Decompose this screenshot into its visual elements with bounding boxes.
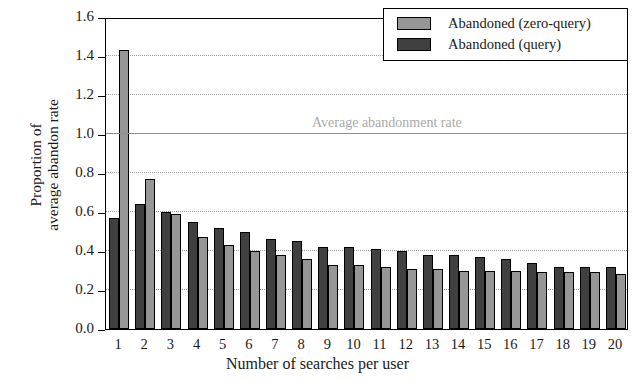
gridline <box>106 211 627 212</box>
bar-zero-query-18 <box>564 272 574 329</box>
bar-query-10 <box>344 247 354 329</box>
bar-query-1 <box>109 218 119 329</box>
bar-zero-query-3 <box>171 214 181 329</box>
bar-zero-query-12 <box>407 269 417 329</box>
y-axis-tick <box>98 18 105 19</box>
bar-query-8 <box>292 241 302 329</box>
bar-zero-query-9 <box>328 265 338 329</box>
gridline <box>106 94 627 95</box>
y-axis-tick-label: 0.0 <box>48 320 94 337</box>
x-axis-title: Number of searches per user <box>0 355 635 373</box>
y-axis-tick <box>98 135 105 136</box>
y-axis-tick-label: 1.0 <box>48 125 94 142</box>
bar-query-18 <box>554 267 564 329</box>
bar-query-19 <box>580 267 590 329</box>
legend-label-query: Abandoned (query) <box>448 36 561 53</box>
bar-query-7 <box>266 239 276 329</box>
bar-zero-query-7 <box>276 255 286 329</box>
y-axis-tick-label: 0.2 <box>48 281 94 298</box>
bar-query-14 <box>449 255 459 329</box>
y-axis-tick <box>98 252 105 253</box>
bar-query-4 <box>188 222 198 329</box>
bar-zero-query-16 <box>511 271 521 330</box>
bar-zero-query-5 <box>224 245 234 329</box>
bar-query-9 <box>318 247 328 329</box>
y-axis-tick <box>98 57 105 58</box>
legend-item-query: Abandoned (query) <box>384 34 627 55</box>
bar-zero-query-20 <box>616 274 626 329</box>
y-axis-tick <box>98 330 105 331</box>
average-reference-label: Average abandonment rate <box>312 115 462 131</box>
y-axis-tick <box>98 96 105 97</box>
bar-zero-query-6 <box>250 251 260 329</box>
bar-query-12 <box>397 251 407 329</box>
legend-swatch-icon-query <box>397 38 431 51</box>
y-axis-tick <box>98 213 105 214</box>
bar-query-20 <box>606 267 616 329</box>
bar-zero-query-17 <box>537 272 547 329</box>
bar-zero-query-13 <box>433 269 443 329</box>
legend-item-zero-query: Abandoned (zero-query) <box>384 13 627 34</box>
bar-zero-query-11 <box>381 267 391 329</box>
bar-zero-query-10 <box>354 265 364 329</box>
y-axis-tick-label: 1.4 <box>48 47 94 64</box>
chart-legend: Abandoned (zero-query) Abandoned (query) <box>383 8 628 61</box>
average-reference-line <box>106 133 627 134</box>
bar-query-3 <box>161 212 171 329</box>
gridline <box>106 250 627 251</box>
legend-swatch-icon-zero-query <box>397 17 431 30</box>
y-axis-tick <box>98 291 105 292</box>
bar-zero-query-1 <box>119 50 129 329</box>
bar-chart-figure: Proportion of average abandon rate 0.00.… <box>0 0 635 383</box>
bar-query-6 <box>240 232 250 330</box>
bar-query-13 <box>423 255 433 329</box>
bar-query-5 <box>214 228 224 329</box>
bar-zero-query-4 <box>198 237 208 329</box>
y-axis-tick-label: 0.4 <box>48 242 94 259</box>
y-axis-tick-label: 1.6 <box>48 8 94 25</box>
bar-query-15 <box>475 257 485 329</box>
gridline <box>106 289 627 290</box>
bar-zero-query-15 <box>485 271 495 330</box>
legend-label-zero-query: Abandoned (zero-query) <box>448 15 591 32</box>
y-axis-tick-label: 1.2 <box>48 86 94 103</box>
bar-query-17 <box>527 263 537 329</box>
y-axis-tick-label: 0.8 <box>48 164 94 181</box>
bar-zero-query-14 <box>459 271 469 330</box>
bar-zero-query-2 <box>145 179 155 329</box>
x-axis-tick-label: 20 <box>600 336 630 353</box>
bar-query-16 <box>501 259 511 329</box>
gridline <box>106 172 627 173</box>
y-axis-tick-label: 0.6 <box>48 203 94 220</box>
bar-zero-query-8 <box>302 259 312 329</box>
y-axis-tick <box>98 174 105 175</box>
bar-query-2 <box>135 204 145 329</box>
bar-zero-query-19 <box>590 272 600 329</box>
plot-area: Average abandonment rate <box>105 18 628 330</box>
bar-query-11 <box>371 249 381 329</box>
